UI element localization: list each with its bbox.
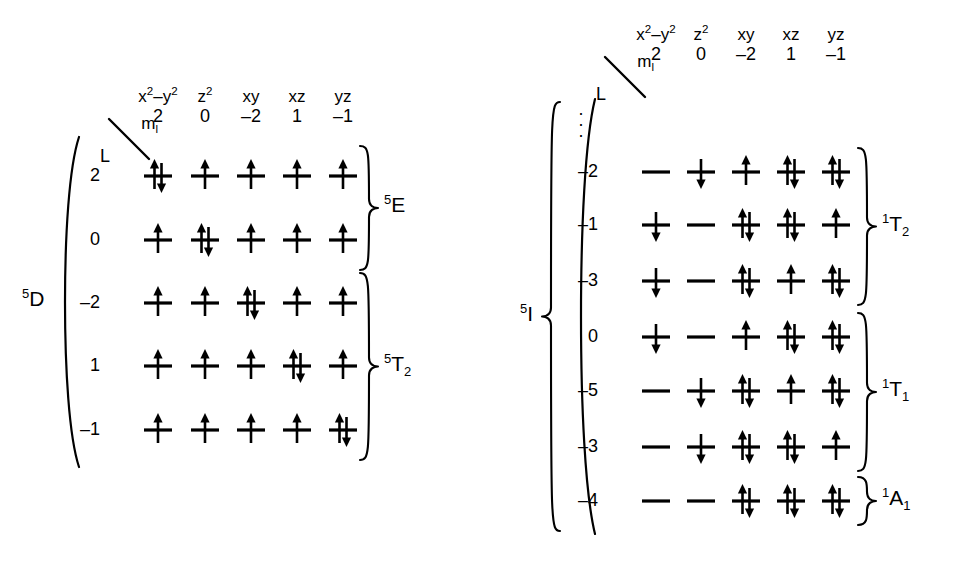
group-term-symbol: 1T1 bbox=[882, 377, 909, 401]
overall-term-letter: I bbox=[527, 302, 533, 325]
term-letter: A bbox=[889, 486, 903, 509]
orbital-cell bbox=[729, 370, 763, 410]
overall-term-symbol: 5D bbox=[22, 287, 44, 311]
term-subscript: 1 bbox=[903, 498, 910, 513]
column-orbital-label: yz bbox=[309, 88, 377, 106]
orbital-cell bbox=[684, 370, 718, 410]
orbital-cell bbox=[639, 151, 673, 191]
right-table: x2–y22z20xy–2xz1yz–1mlL···–2–1–30–5–3–41… bbox=[488, 0, 976, 565]
orbital-cell bbox=[819, 370, 853, 410]
orbital-cell bbox=[326, 219, 360, 259]
outer-bracket bbox=[578, 96, 598, 537]
orbital-cell bbox=[774, 480, 808, 520]
term-subscript: 2 bbox=[902, 224, 909, 239]
orbital-cell bbox=[819, 204, 853, 244]
group-brace bbox=[856, 146, 878, 307]
orbital-cell bbox=[639, 204, 673, 244]
header-ml-letter: m bbox=[637, 52, 651, 71]
term-subscript: 2 bbox=[404, 364, 411, 379]
right-diagram-panel: x2–y22z20xy–2xz1yz–1mlL···–2–1–30–5–3–41… bbox=[488, 0, 976, 565]
orbital-cell bbox=[729, 260, 763, 300]
orbital-cell bbox=[639, 480, 673, 520]
orbital-cell bbox=[684, 480, 718, 520]
orbital-cell bbox=[188, 282, 222, 322]
orbital-cell bbox=[819, 260, 853, 300]
group-term-symbol: 5E bbox=[384, 193, 405, 217]
orbital-cell bbox=[280, 219, 314, 259]
orbital-cell bbox=[234, 345, 268, 385]
orbital-cell bbox=[326, 155, 360, 195]
header-ml-subscript: l bbox=[651, 61, 654, 73]
orbital-cell bbox=[684, 204, 718, 244]
orbital-cell bbox=[188, 219, 222, 259]
orbital-cell bbox=[774, 316, 808, 356]
orbital-cell bbox=[729, 151, 763, 191]
orbital-cell bbox=[639, 316, 673, 356]
group-term-symbol: 1T2 bbox=[882, 212, 909, 236]
orbital-cell bbox=[141, 345, 175, 385]
group-brace bbox=[358, 271, 380, 462]
overall-term-letter: D bbox=[29, 287, 44, 310]
orbital-cell bbox=[326, 282, 360, 322]
orbital-cell bbox=[819, 151, 853, 191]
orbital-cell bbox=[774, 426, 808, 466]
group-term-symbol: 1A1 bbox=[882, 486, 911, 510]
orbital-cell bbox=[234, 155, 268, 195]
orbital-cell bbox=[819, 426, 853, 466]
header-ml-label: ml bbox=[141, 114, 158, 134]
orbital-cell bbox=[141, 409, 175, 449]
orbital-cell bbox=[819, 316, 853, 356]
orbital-cell bbox=[639, 260, 673, 300]
orbital-cell bbox=[234, 409, 268, 449]
overall-group-brace bbox=[540, 100, 562, 533]
orbital-cell bbox=[188, 345, 222, 385]
orbital-cell bbox=[729, 480, 763, 520]
group-brace bbox=[856, 311, 878, 473]
column-ml-value: –1 bbox=[309, 107, 377, 126]
orbital-cell bbox=[326, 409, 360, 449]
orbital-cell bbox=[774, 204, 808, 244]
orbital-cell bbox=[188, 155, 222, 195]
orbital-cell bbox=[684, 316, 718, 356]
term-letter: T bbox=[889, 377, 902, 400]
orbital-cell bbox=[280, 345, 314, 385]
corner-header-L-ml: mlL bbox=[596, 50, 656, 106]
orbital-cell bbox=[774, 260, 808, 300]
orbital-cell bbox=[639, 370, 673, 410]
group-term-symbol: 5T2 bbox=[384, 352, 411, 376]
orbital-cell bbox=[280, 155, 314, 195]
term-subscript: 1 bbox=[902, 389, 909, 404]
orbital-cell bbox=[234, 219, 268, 259]
term-letter: T bbox=[391, 352, 404, 375]
orbital-cell bbox=[819, 480, 853, 520]
header-ml-label: ml bbox=[637, 52, 654, 72]
header-ml-subscript: l bbox=[155, 123, 158, 135]
header-ml-letter: m bbox=[141, 114, 155, 133]
term-letter: E bbox=[391, 193, 405, 216]
orbital-cell bbox=[639, 426, 673, 466]
orbital-cell bbox=[774, 151, 808, 191]
column-header-4: yz–1 bbox=[309, 88, 377, 126]
column-header-4: yz–1 bbox=[802, 26, 870, 64]
orbital-cell bbox=[326, 345, 360, 385]
orbital-cell bbox=[684, 426, 718, 466]
outer-bracket bbox=[62, 134, 82, 470]
left-diagram-panel: x2–y22z20xy–2xz1yz–1mlL20–21–15E5T25D bbox=[0, 0, 488, 565]
left-table: x2–y22z20xy–2xz1yz–1mlL20–21–15E5T25D bbox=[0, 0, 488, 565]
orbital-cell bbox=[729, 204, 763, 244]
orbital-cell bbox=[684, 151, 718, 191]
orbital-cell bbox=[141, 282, 175, 322]
orbital-cell bbox=[280, 409, 314, 449]
orbital-cell bbox=[774, 370, 808, 410]
group-brace bbox=[856, 475, 878, 527]
orbital-cell bbox=[729, 316, 763, 356]
orbital-cell bbox=[141, 155, 175, 195]
column-ml-value: –1 bbox=[802, 45, 870, 64]
header-L-label: L bbox=[100, 146, 110, 167]
term-letter: T bbox=[889, 212, 902, 235]
orbital-cell bbox=[280, 282, 314, 322]
overall-term-symbol: 5I bbox=[520, 302, 533, 326]
orbital-cell bbox=[729, 426, 763, 466]
group-brace bbox=[358, 144, 380, 272]
orbital-cell bbox=[684, 260, 718, 300]
